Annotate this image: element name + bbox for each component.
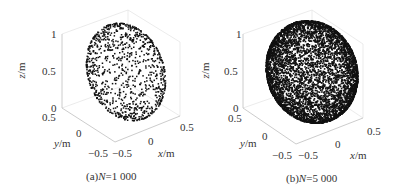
y-tick-0.5: 0.5 [228, 113, 242, 124]
x-tick-neg0.5: −0.5 [298, 150, 318, 161]
panel-a: 1 0.5 0 z/m 0.5 0 −0.5 y/m −0.5 0 0.5 x/… [0, 0, 200, 192]
y-axis-label: y/m [240, 138, 257, 149]
scatter3d-plot-a [0, 0, 200, 192]
x-tick-neg0.5: −0.5 [112, 148, 132, 159]
y-tick-0: 0 [262, 131, 268, 142]
scatter-points-b [265, 20, 358, 124]
axes-box-a [62, 10, 180, 142]
x-tick-0.5: 0.5 [180, 122, 194, 133]
x-tick-0: 0 [335, 139, 341, 150]
y-tick-neg0.5: −0.5 [88, 148, 108, 159]
y-tick-neg0.5: −0.5 [272, 150, 292, 161]
z-tick-1: 1 [236, 29, 242, 40]
x-axis-label: x/m [350, 150, 367, 161]
x-axis-label: x/m [158, 148, 175, 159]
x-tick-0: 0 [148, 136, 154, 147]
caption-b: (b)N=5 000 [286, 172, 337, 184]
z-tick-0.5: 0.5 [224, 66, 238, 77]
y-tick-0: 0 [76, 128, 82, 139]
z-axis-label: z/m [200, 63, 211, 79]
caption-a: (a)N=1 000 [86, 170, 137, 182]
panel-b: 1 0.5 0 z/m 0.5 0 −0.5 y/m −0.5 0 0.5 x/… [200, 0, 399, 192]
y-tick-0.5: 0.5 [42, 112, 56, 123]
x-tick-0.5: 0.5 [367, 126, 381, 137]
z-tick-0.5: 0.5 [42, 66, 56, 77]
scatter3d-plot-b [200, 0, 399, 192]
y-axis-label: y/m [54, 138, 71, 149]
z-axis-label: z/m [16, 63, 27, 79]
z-tick-1: 1 [51, 29, 57, 40]
scatter-points-a [86, 23, 167, 122]
